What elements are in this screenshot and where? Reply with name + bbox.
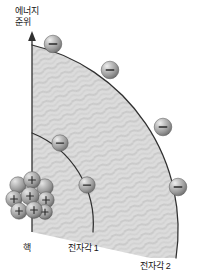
energy-axis-label-line2: 준위 — [15, 17, 38, 28]
electron — [101, 61, 119, 79]
shell1-label: 전자각 1 — [68, 243, 99, 254]
electron — [52, 135, 68, 151]
energy-axis-label-line1: 에너지 — [15, 6, 38, 16]
energy-axis-arrowhead — [28, 31, 36, 41]
electron — [44, 35, 62, 53]
electron — [79, 177, 95, 193]
figure-canvas: 에너지 준위 핵 전자각 1 전자각 2 — [0, 0, 197, 279]
electron — [169, 178, 187, 196]
electron — [154, 118, 172, 136]
energy-level-axis-label: 에너지 준위 — [15, 6, 38, 28]
shell2-label: 전자각 2 — [140, 261, 171, 272]
nucleus-label: 핵 — [23, 243, 31, 254]
atom-shell-diagram — [0, 0, 197, 279]
